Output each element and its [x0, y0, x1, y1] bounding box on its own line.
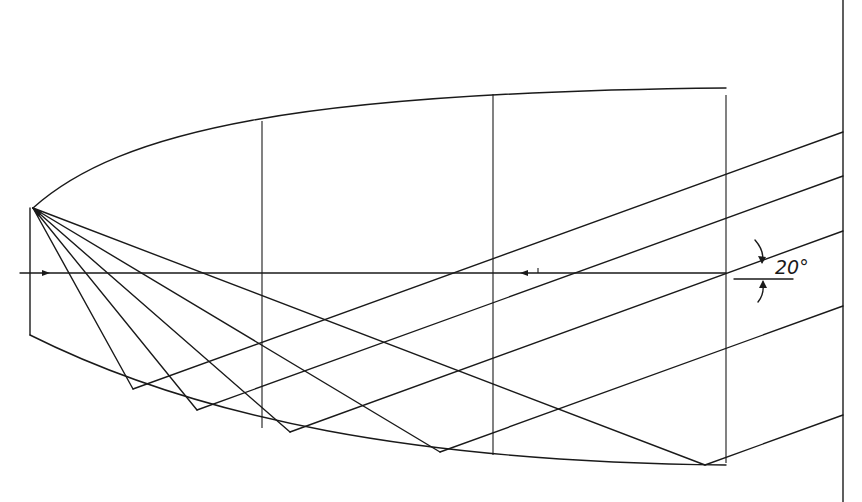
axis-arrow-left-icon: [520, 270, 528, 276]
top-reflector-curve: [33, 88, 726, 208]
axis-arrow-right-icon: [42, 270, 50, 276]
reflector-diagram: 20°: [0, 0, 862, 502]
reflected-rays: [133, 132, 843, 465]
incident-rays: [33, 208, 705, 465]
arrow-up-icon: [759, 280, 767, 288]
angle-annotation: 20°: [734, 240, 809, 302]
angle-label: 20°: [775, 256, 809, 278]
